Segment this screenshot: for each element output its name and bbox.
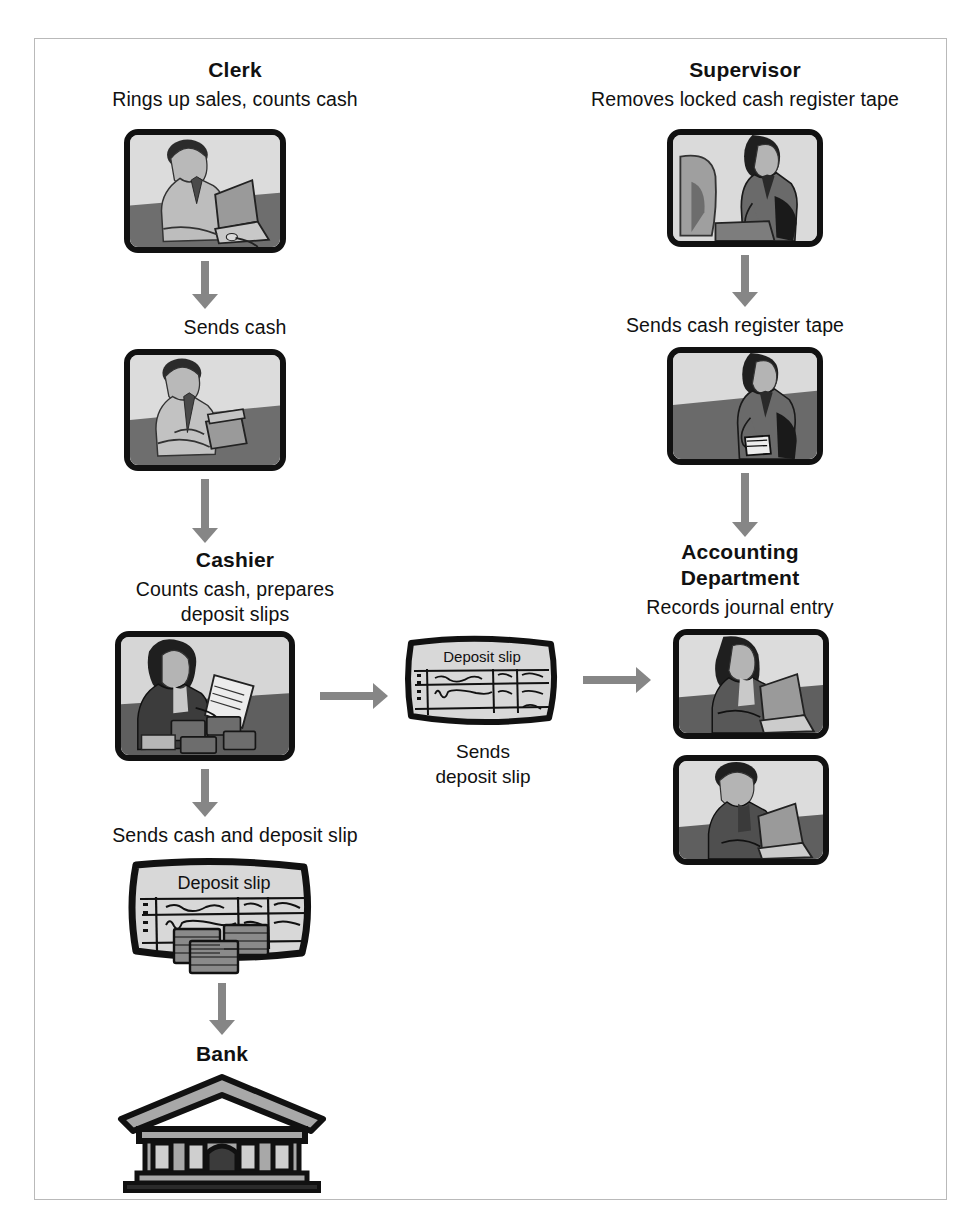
bank-role-label: Bank	[82, 1041, 362, 1067]
deposit-slip-cash-label: Deposit slip	[177, 873, 270, 893]
cashier-with-deposit-slip-image	[115, 631, 295, 761]
clerk-duty: Rings up sales, counts cash	[75, 87, 395, 112]
clerk-at-laptop-image	[124, 129, 286, 253]
accounting-duty-label: Records journal entry	[580, 595, 900, 620]
deposit-slip-label: Deposit slip	[443, 648, 521, 665]
clerk-counting-cash-image	[124, 349, 286, 471]
cashier-duty: Counts cash, prepares deposit slips	[65, 577, 405, 627]
arrow-clerk-to-sends-cash	[192, 261, 218, 309]
accounting-role-title: Accounting Department	[595, 539, 885, 591]
clerk-role-title: Clerk	[95, 57, 375, 83]
clerk-flow-label-wrap: Sends cash	[95, 315, 375, 340]
accountant-man-at-laptop-image	[673, 755, 829, 865]
supervisor-role-label: Supervisor	[595, 57, 895, 83]
cashier-flow-label: Sends cash and deposit slip	[45, 823, 425, 848]
arrow-deposit-slip-to-accounting	[583, 667, 651, 693]
supervisor-duty: Removes locked cash register tape	[555, 87, 935, 112]
supervisor-flow-label-wrap: Sends cash register tape	[585, 313, 885, 338]
middle-flow-label-wrap: Sends deposit slip	[393, 739, 573, 789]
cashier-duty-label: Counts cash, prepares deposit slips	[65, 577, 405, 627]
cashier-flow-label-wrap: Sends cash and deposit slip	[45, 823, 425, 848]
accounting-duty: Records journal entry	[580, 595, 900, 620]
bank-role-title: Bank	[82, 1041, 362, 1067]
arrow-clerk-to-cashier	[192, 479, 218, 543]
arrow-supervisor-to-accounting	[732, 473, 758, 537]
cashier-role-title: Cashier	[95, 547, 375, 573]
supervisor-duty-label: Removes locked cash register tape	[555, 87, 935, 112]
deposit-slip-image: Deposit slip	[403, 633, 560, 731]
diagram-frame: Clerk Rings up sales, counts cash Sends …	[34, 38, 947, 1200]
clerk-flow-label: Sends cash	[95, 315, 375, 340]
arrow-cashier-to-deposit-slip	[320, 683, 388, 709]
arrow-cashier-to-sends-cash-and-slip	[192, 769, 218, 817]
supervisor-holding-tape-image	[667, 347, 823, 465]
supervisor-at-register-image	[667, 129, 823, 247]
accounting-role-label: Accounting Department	[595, 539, 885, 591]
supervisor-flow-label: Sends cash register tape	[585, 313, 885, 338]
cashier-role-label: Cashier	[95, 547, 375, 573]
middle-flow-label: Sends deposit slip	[393, 739, 573, 789]
arrow-cashier-cash-to-bank	[209, 983, 235, 1035]
clerk-role-label: Clerk	[95, 57, 375, 83]
accountant-woman-at-laptop-image	[673, 629, 829, 739]
arrow-supervisor-to-sends-tape	[732, 255, 758, 307]
clerk-duty-label: Rings up sales, counts cash	[75, 87, 395, 112]
supervisor-role-title: Supervisor	[595, 57, 895, 83]
bank-building-image	[115, 1073, 330, 1193]
deposit-slip-with-cash-image: Deposit slip	[126, 855, 322, 977]
